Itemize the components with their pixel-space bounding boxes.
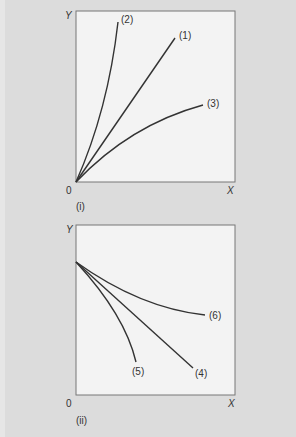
panel-ii: Y (6) (5) (4) 0 X (ii) (0, 220, 296, 437)
curve-label-4: (4) (195, 369, 207, 379)
origin-label: 0 (66, 399, 72, 409)
y-axis-label: Y (66, 225, 73, 235)
panel-caption: (i) (76, 202, 85, 212)
panel-caption: (ii) (76, 416, 87, 426)
curve-label-1: (1) (179, 31, 191, 41)
y-axis-label: Y (65, 11, 72, 21)
curve-label-3: (3) (207, 99, 219, 109)
plot-frame (76, 11, 235, 182)
curve-label-2: (2) (121, 15, 133, 25)
origin-label: 0 (66, 186, 72, 196)
panel-i: Y (2) (1) (3) 0 X (i) (0, 0, 296, 220)
panel-ii-plot (0, 220, 296, 437)
curve-label-6: (6) (209, 311, 221, 321)
x-axis-label: X (228, 399, 235, 409)
panel-i-plot (0, 0, 296, 220)
x-axis-label: X (227, 186, 234, 196)
curve-label-5: (5) (132, 367, 144, 377)
